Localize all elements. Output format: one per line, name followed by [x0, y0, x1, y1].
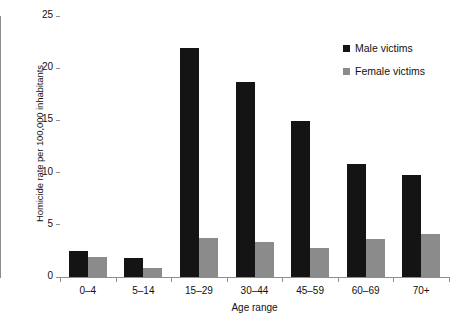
- legend-item-male-victims[interactable]: Male victims: [343, 42, 425, 54]
- square-marker-icon: [343, 45, 350, 52]
- bar-female-victims-60–69: [366, 239, 385, 277]
- x-tick-label-70+: 70+: [393, 285, 449, 296]
- x-tick-label-60–69: 60–69: [338, 285, 394, 296]
- bar-female-victims-30–44: [255, 242, 274, 277]
- bar-male-victims-60–69: [347, 164, 366, 277]
- x-tick-label-45–59: 45–59: [282, 285, 338, 296]
- bar-female-victims-45–59: [310, 248, 329, 277]
- legend-item-female-victims[interactable]: Female victims: [343, 65, 425, 77]
- x-tick-mark: [393, 277, 394, 282]
- bar-female-victims-0–4: [88, 257, 107, 277]
- y-tick-label: 15: [42, 113, 53, 124]
- x-tick-mark: [282, 277, 283, 282]
- x-tick-label-5–14: 5–14: [116, 285, 172, 296]
- x-axis-line: [60, 277, 449, 278]
- x-tick-mark: [449, 277, 450, 282]
- x-tick-label-30–44: 30–44: [227, 285, 283, 296]
- x-tick-label-0–4: 0–4: [60, 285, 116, 296]
- y-tick-label: 20: [42, 61, 53, 72]
- x-tick-mark: [60, 277, 61, 282]
- legend-label: Male victims: [355, 42, 413, 54]
- bar-male-victims-30–44: [236, 82, 255, 277]
- x-axis-title: Age range: [60, 302, 449, 313]
- x-tick-mark: [171, 277, 172, 282]
- bar-male-victims-70+: [402, 175, 421, 277]
- homicide-rate-bar-chart: Homicide rate per 100,000 inhabitants 05…: [0, 0, 457, 326]
- bar-female-victims-15–29: [199, 238, 218, 277]
- legend-label: Female victims: [355, 65, 425, 77]
- bar-male-victims-5–14: [124, 258, 143, 277]
- bar-male-victims-0–4: [69, 251, 88, 277]
- y-tick-label: 10: [42, 166, 53, 177]
- bar-female-victims-5–14: [143, 268, 162, 277]
- x-tick-mark: [227, 277, 228, 282]
- chart-legend: Male victimsFemale victims: [343, 42, 425, 88]
- x-tick-mark: [338, 277, 339, 282]
- x-tick-mark: [116, 277, 117, 282]
- x-tick-label-15–29: 15–29: [171, 285, 227, 296]
- y-tick-label: 0: [47, 270, 53, 281]
- bar-male-victims-15–29: [180, 48, 199, 277]
- y-tick-label: 5: [47, 218, 53, 229]
- square-marker-icon: [343, 68, 350, 75]
- y-axis-title: Homicide rate per 100,000 inhabitants: [34, 19, 45, 269]
- y-tick-label: 25: [42, 9, 53, 20]
- y-axis-line: [0, 16, 1, 278]
- bar-female-victims-70+: [421, 234, 440, 277]
- bar-male-victims-45–59: [291, 121, 310, 277]
